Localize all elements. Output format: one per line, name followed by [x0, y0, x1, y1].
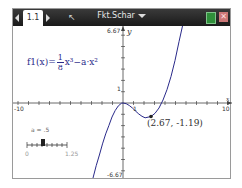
function-expression: x³−a·x² [65, 57, 98, 67]
graph-canvas [13, 26, 232, 178]
function-label[interactable]: f1(x)=18x³−a·x² [27, 53, 98, 72]
close-button[interactable]: ✕ [219, 12, 228, 22]
y-tick-label: 1 [117, 85, 121, 92]
x-axis-label: x [226, 95, 229, 102]
document-title[interactable]: Fkt.Schar [13, 11, 230, 20]
slider-thumb[interactable] [41, 139, 45, 146]
y-max-label: 6.67 [107, 27, 120, 34]
battery-icon [206, 12, 216, 24]
graph-area[interactable]: 6.67 y 1 1 -10 10 x -6.67 f1(x)=18x³−a·x… [13, 26, 230, 178]
y-min-label: -6.67 [107, 171, 123, 178]
slider-max-label: 1.25 [65, 150, 78, 157]
slider-label: a = .5 [31, 126, 49, 133]
fraction: 18 [57, 53, 64, 72]
x-max-label: 10 [222, 105, 230, 112]
document-title-text: Fkt.Schar [97, 11, 135, 20]
function-name: f1(x)= [27, 57, 56, 67]
y-axis-label: y [127, 27, 132, 36]
fraction-numerator: 1 [57, 53, 64, 63]
chevron-down-icon[interactable] [138, 14, 146, 18]
slider-min-label: 0 [25, 150, 29, 157]
title-bar: 1.1 ↖ Fkt.Schar ✕ [13, 9, 230, 26]
calculator-screen: 1.1 ↖ Fkt.Schar ✕ [12, 8, 231, 179]
x-min-label: -10 [14, 105, 24, 112]
fraction-denominator: 8 [58, 63, 63, 72]
x-tick-label: 1 [133, 105, 137, 112]
point-coordinates-label[interactable]: (2.67, -1.19) [147, 118, 203, 128]
